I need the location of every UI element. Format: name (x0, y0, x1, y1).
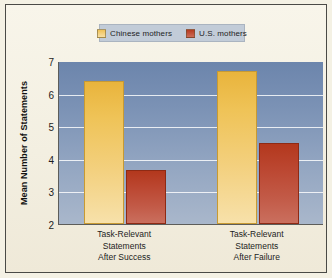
y-axis-tick-2: 2 (48, 220, 54, 231)
y-axis-tick-3: 3 (48, 187, 54, 198)
y-axis-title: Mean Number of Statements (15, 59, 33, 227)
bar-chart-figure: Chinese mothers U.S. mothers Mean Number… (0, 0, 332, 278)
legend-item-us-mothers: U.S. mothers (186, 29, 247, 38)
x-axis-category-1-line-3: After Success (58, 252, 191, 264)
y-axis-tick-5: 5 (48, 122, 54, 133)
y-axis-tick-6: 6 (48, 89, 54, 100)
x-axis-category-1-line-2: Statements (58, 241, 191, 253)
legend-swatch-us-mothers (186, 29, 195, 38)
bar-chinese-mothers-2 (217, 71, 257, 224)
bar-us-mothers-1 (126, 170, 166, 224)
chart-legend: Chinese mothers U.S. mothers (99, 24, 245, 42)
figure-frame: Chinese mothers U.S. mothers Mean Number… (5, 4, 327, 273)
x-axis-category-1: Task-RelevantStatementsAfter Success (58, 229, 191, 264)
x-axis-category-labels: Task-RelevantStatementsAfter SuccessTask… (58, 229, 323, 273)
plot-area (58, 62, 323, 225)
x-axis-category-1-line-1: Task-Relevant (58, 229, 191, 241)
y-axis-tick-4: 4 (48, 154, 54, 165)
y-axis-tick-7: 7 (48, 57, 54, 68)
x-axis-category-2: Task-RelevantStatementsAfter Failure (191, 229, 324, 264)
y-axis-title-text: Mean Number of Statements (19, 81, 29, 205)
bars-layer (59, 62, 323, 224)
bar-us-mothers-2 (259, 143, 299, 225)
legend-label-us-mothers: U.S. mothers (199, 29, 247, 38)
x-axis-category-2-line-2: Statements (191, 241, 324, 253)
legend-label-chinese-mothers: Chinese mothers (110, 29, 172, 38)
legend-swatch-chinese-mothers (97, 29, 106, 38)
bar-chinese-mothers-1 (84, 81, 124, 224)
x-axis-category-2-line-1: Task-Relevant (191, 229, 324, 241)
y-axis-tick-labels: 765432 (36, 62, 54, 225)
x-axis-category-2-line-3: After Failure (191, 252, 324, 264)
legend-item-chinese-mothers: Chinese mothers (97, 29, 172, 38)
